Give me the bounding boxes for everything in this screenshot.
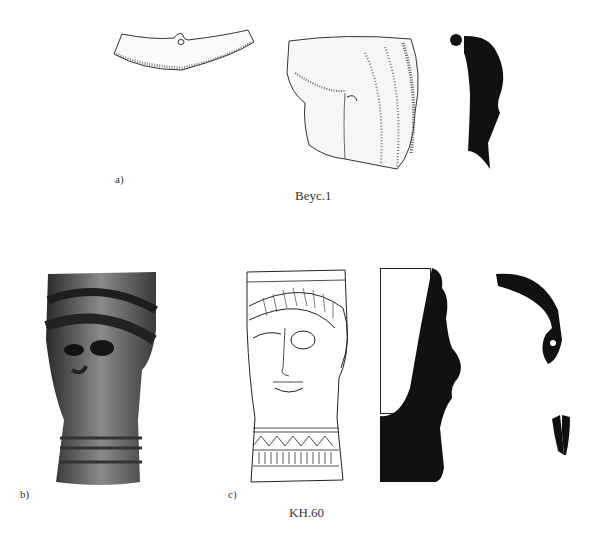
head-vessel-drawing	[243, 268, 353, 484]
head-vessel-photograph	[42, 270, 162, 490]
panel-label-a: a)	[115, 173, 124, 185]
figure-caption-beyc1: Beyc.1	[295, 188, 331, 204]
panel-label-b: b)	[20, 488, 29, 500]
small-fragment-section	[548, 413, 574, 457]
pendant-fragment-drawing	[112, 30, 272, 80]
head-vessel-section-profile	[380, 268, 470, 484]
head-fragment-drawing	[285, 33, 435, 173]
figure-caption-kh60: KH.60	[289, 505, 324, 521]
panel-label-c: c)	[228, 488, 237, 500]
ear-ornament-section	[490, 270, 570, 380]
head-fragment-section-profile	[448, 33, 518, 178]
